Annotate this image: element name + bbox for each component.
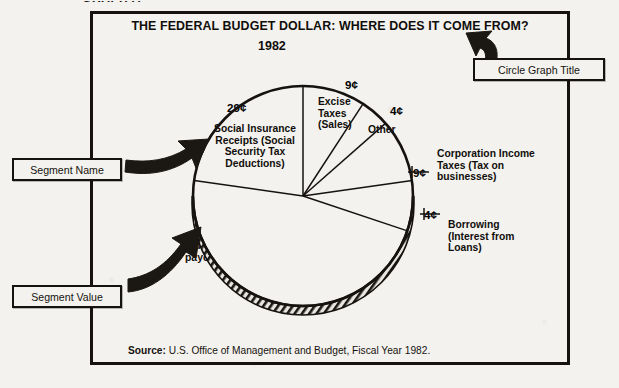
callout-segment-name-label: Segment Name	[30, 164, 104, 176]
callout-circle-graph-title[interactable]: Circle Graph Title	[473, 58, 605, 81]
callout-segment-value-label: Segment Value	[31, 291, 103, 303]
arrow-to-segment-value-icon	[128, 227, 201, 292]
callout-circle-graph-title-label: Circle Graph Title	[498, 64, 580, 76]
callout-segment-value[interactable]: Segment Value	[12, 285, 122, 308]
arrow-to-segment-name-icon	[125, 139, 209, 173]
callout-segment-name[interactable]: Segment Name	[12, 158, 122, 181]
textbook-page: GRAPH A THE FEDERAL BUDGET DOLLAR: WHERE…	[0, 0, 619, 388]
